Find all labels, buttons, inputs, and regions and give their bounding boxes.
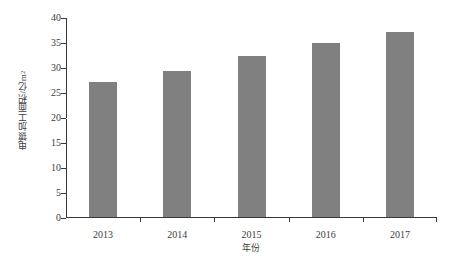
y-tick-mark [61,168,66,169]
bar [238,56,266,217]
x-tick-mark [289,218,290,222]
x-tick-label: 2014 [167,230,187,240]
x-tick-mark [140,218,141,222]
y-tick-label: 15 [51,138,61,148]
y-tick-mark [61,118,66,119]
y-tick-mark [61,18,66,19]
y-tick-label: 40 [51,13,61,23]
y-tick-mark [61,143,66,144]
bar [163,71,191,217]
y-tick-label: 35 [51,38,61,48]
x-axis-title: 年份 [66,244,437,253]
y-tick-mark [61,43,66,44]
y-axis-title-text: 电镀加工面积/亿m [19,74,28,150]
y-tick-label: 0 [56,213,61,223]
bar [89,82,117,217]
x-axis-line [66,217,437,218]
x-tick-mark [436,218,437,222]
x-tick-label: 2017 [390,230,410,240]
bar-chart-figure: 电镀加工面积/亿m2 4035302520151050 201320142015… [0,0,452,270]
x-tick-label: 2015 [242,230,262,240]
y-tick-label: 25 [51,88,61,98]
y-tick-mark [61,193,66,194]
y-tick-label: 20 [51,113,61,123]
y-tick-mark [61,68,66,69]
y-tick-mark [61,218,66,219]
y-tick-label: 30 [51,63,61,73]
x-tick-mark [363,218,364,222]
y-axis-title: 电镀加工面积/亿m2 [14,0,32,220]
plot-area: 4035302520151050 20132014201520162017 [66,18,437,218]
y-axis-title-exponent: 2 [20,70,26,74]
y-tick-label: 10 [51,163,61,173]
x-tick-mark [214,218,215,222]
x-tick-label: 2013 [93,230,113,240]
bar [386,32,414,217]
y-axis-line [66,18,67,218]
y-tick-mark [61,93,66,94]
x-tick-label: 2016 [316,230,336,240]
bar [312,43,340,218]
y-tick-label: 5 [56,188,61,198]
